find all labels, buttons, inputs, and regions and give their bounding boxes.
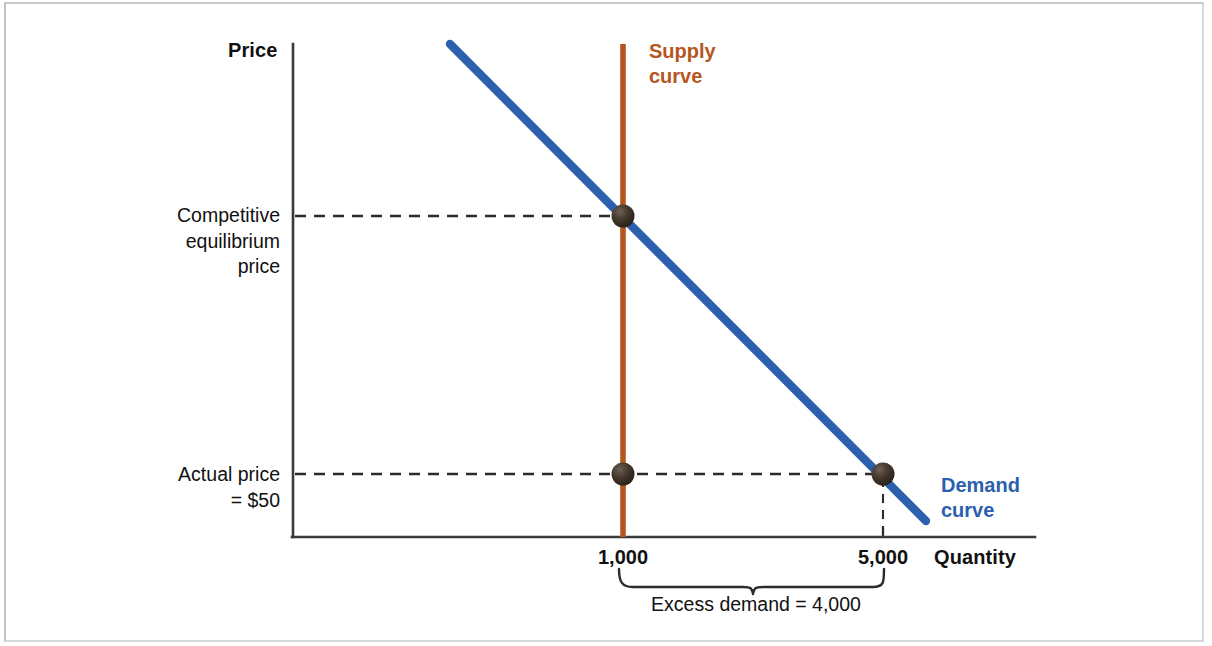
demand-curve-line xyxy=(450,44,926,521)
excess-demand-brace xyxy=(619,569,884,594)
marker-quantity-supplied xyxy=(612,463,635,486)
actual-price-label: Actual price = $50 xyxy=(84,462,280,513)
competitive-equilibrium-price-label: Competitive equilibrium price xyxy=(84,203,280,280)
supply-curve-label: Supply curve xyxy=(649,39,716,89)
caption-remnant xyxy=(120,636,1100,646)
figure-root: Price Quantity Supply curve Demand curve… xyxy=(0,0,1212,646)
x-tick-label-1000: 1,000 xyxy=(568,546,678,569)
marker-competitive-equilibrium xyxy=(612,205,635,228)
excess-demand-label: Excess demand = 4,000 xyxy=(556,593,956,616)
x-tick-label-5000: 5,000 xyxy=(828,546,938,569)
marker-quantity-demanded xyxy=(872,463,895,486)
y-axis-label: Price xyxy=(228,39,277,63)
x-axis-label: Quantity xyxy=(934,546,1016,570)
demand-curve-label: Demand curve xyxy=(941,473,1020,523)
